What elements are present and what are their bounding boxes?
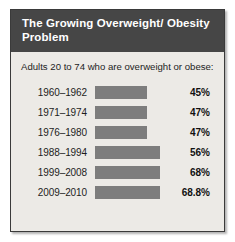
bar-track	[95, 126, 161, 139]
bar-row-period-label: 2009–2010	[21, 187, 95, 198]
bar-track	[95, 186, 161, 199]
bar-row-value-label: 47%	[161, 107, 214, 118]
bar-fill	[95, 146, 160, 159]
bar-track	[95, 106, 161, 119]
bar-row-value-label: 56%	[161, 147, 214, 158]
bar-fill	[95, 186, 160, 199]
chart-body-panel: Adults 20 to 74 who are overweight or ob…	[11, 52, 224, 209]
bar-row: 1971–197447%	[21, 103, 214, 122]
bar-row: 1976–198047%	[21, 123, 214, 142]
chart-subtitle: Adults 20 to 74 who are overweight or ob…	[21, 61, 214, 74]
bar-chart-rows: 1960–196245%1971–197447%1976–198047%1988…	[21, 83, 214, 202]
bar-track	[95, 166, 161, 179]
bar-fill	[95, 166, 160, 179]
bar-row-value-label: 45%	[161, 87, 214, 98]
chart-title: The Growing Overweight/ Obesity Problem	[22, 17, 213, 44]
bar-row-period-label: 1971–1974	[21, 107, 95, 118]
bar-track	[95, 86, 161, 99]
bar-row-value-label: 68.8%	[161, 187, 214, 198]
bar-row: 1999–200868%	[21, 163, 214, 182]
chart-header-band: The Growing Overweight/ Obesity Problem	[11, 10, 224, 52]
bar-fill	[95, 86, 147, 99]
bar-fill	[95, 126, 147, 139]
bar-row: 1988–199456%	[21, 143, 214, 162]
bar-fill	[95, 106, 147, 119]
bar-row-value-label: 47%	[161, 127, 214, 138]
bar-row-period-label: 1976–1980	[21, 127, 95, 138]
bar-row-value-label: 68%	[161, 167, 214, 178]
bar-row: 1960–196245%	[21, 83, 214, 102]
bar-track	[95, 146, 161, 159]
bar-row-period-label: 1960–1962	[21, 87, 95, 98]
bar-row-period-label: 1999–2008	[21, 167, 95, 178]
bar-row: 2009–201068.8%	[21, 183, 214, 202]
infographic-card: The Growing Overweight/ Obesity Problem …	[10, 9, 225, 232]
bar-row-period-label: 1988–1994	[21, 147, 95, 158]
